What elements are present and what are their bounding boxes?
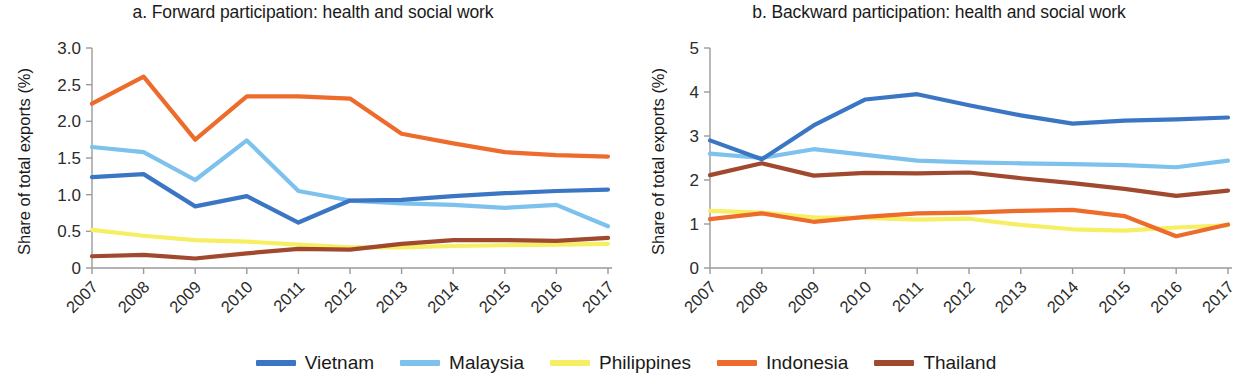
y-axis-tick-label: 2 [690, 171, 699, 190]
x-axis-tick-label: 2008 [114, 277, 153, 316]
legend-swatch-icon [400, 360, 440, 366]
x-axis-tick-label: 2007 [680, 277, 719, 316]
legend-item-philippines: Philippines [550, 352, 691, 374]
chart-legend: VietnamMalaysiaPhilippinesIndonesiaThail… [0, 345, 1252, 381]
x-axis-tick-label: 2014 [1043, 277, 1082, 316]
x-axis-tick-label: 2010 [217, 277, 256, 316]
x-axis-tick-label: 2007 [62, 277, 101, 316]
series-line-vietnam [92, 174, 608, 222]
y-axis-tick-label: 1.5 [57, 149, 81, 168]
panel-forward-participation: a. Forward participation: health and soc… [0, 0, 626, 345]
legend-swatch-icon [874, 360, 914, 366]
panel-b-plot: 0123452007200820092010201120122013201420… [626, 0, 1252, 345]
legend-swatch-icon [256, 360, 296, 366]
legend-label: Philippines [599, 352, 691, 374]
legend-item-vietnam: Vietnam [256, 352, 374, 374]
legend-label: Vietnam [305, 352, 374, 374]
x-axis-tick-label: 2011 [889, 277, 927, 315]
y-axis-tick-label: 5 [690, 39, 699, 58]
y-axis-tick-label: 0 [72, 259, 81, 278]
series-line-thailand [92, 238, 608, 259]
figure-root: a. Forward participation: health and soc… [0, 0, 1252, 381]
x-axis-tick-label: 2014 [424, 277, 463, 316]
legend-swatch-icon [550, 360, 590, 366]
x-axis-tick-label: 2013 [991, 277, 1030, 316]
x-axis-tick-label: 2016 [1147, 277, 1186, 316]
series-line-malaysia [710, 149, 1228, 167]
x-axis-tick-label: 2015 [475, 277, 514, 316]
x-axis-tick-label: 2017 [578, 277, 617, 316]
x-axis-tick-label: 2010 [836, 277, 875, 316]
series-line-indonesia [92, 77, 608, 157]
y-axis-tick-label: 2.5 [57, 76, 81, 95]
x-axis-tick-label: 2009 [166, 277, 205, 316]
y-axis-tick-label: 0 [690, 259, 699, 278]
y-axis-tick-label: 1.0 [57, 186, 81, 205]
x-axis-tick-label: 2011 [270, 277, 308, 315]
panel-backward-participation: b. Backward participation: health and so… [626, 0, 1252, 345]
y-axis-tick-label: 4 [690, 83, 699, 102]
legend-item-indonesia: Indonesia [717, 352, 848, 374]
legend-swatch-icon [717, 360, 757, 366]
y-axis-tick-label: 0.5 [57, 222, 81, 241]
legend-label: Malaysia [449, 352, 524, 374]
y-axis-tick-label: 3.0 [57, 39, 81, 58]
panels-container: a. Forward participation: health and soc… [0, 0, 1252, 345]
x-axis-tick-label: 2017 [1198, 277, 1237, 316]
legend-item-thailand: Thailand [874, 352, 996, 374]
x-axis-tick-label: 2012 [939, 277, 978, 316]
series-line-vietnam [710, 94, 1228, 159]
legend-label: Indonesia [766, 352, 848, 374]
y-axis-tick-label: 2.0 [57, 112, 81, 131]
y-axis-tick-label: 1 [690, 215, 699, 234]
x-axis-tick-label: 2012 [320, 277, 359, 316]
panel-a-plot: 00.51.01.52.02.53.0200720082009201020112… [0, 0, 626, 345]
y-axis-tick-label: 3 [690, 127, 699, 146]
legend-item-malaysia: Malaysia [400, 352, 524, 374]
x-axis-tick-label: 2016 [527, 277, 566, 316]
x-axis-tick-label: 2015 [1095, 277, 1134, 316]
x-axis-tick-label: 2013 [372, 277, 411, 316]
x-axis-tick-label: 2009 [784, 277, 823, 316]
x-axis-tick-label: 2008 [732, 277, 771, 316]
legend-label: Thailand [923, 352, 996, 374]
